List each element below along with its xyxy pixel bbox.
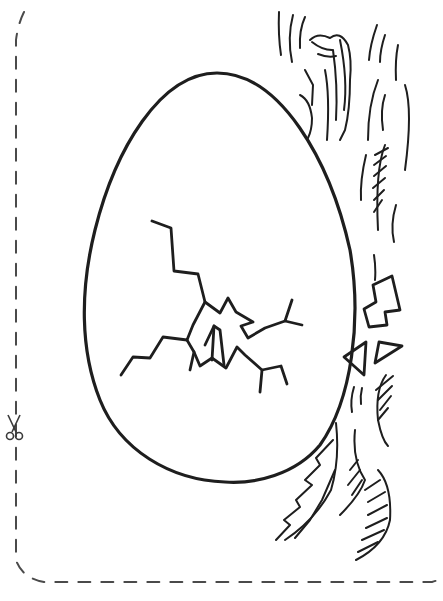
shell-fragments xyxy=(344,276,402,375)
scissors-icon xyxy=(7,415,23,440)
straw xyxy=(279,12,409,280)
crack xyxy=(121,221,302,392)
egg xyxy=(84,73,355,482)
coloring-page xyxy=(0,0,443,601)
